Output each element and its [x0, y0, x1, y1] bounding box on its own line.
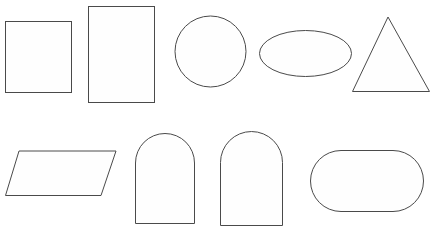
shapes-svg	[0, 0, 433, 234]
shape-rectangle	[89, 7, 155, 103]
shape-arch-wide	[221, 132, 283, 226]
shape-circle	[175, 16, 246, 87]
shape-stadium	[311, 151, 424, 212]
shape-diagram-canvas	[0, 0, 433, 234]
shape-ellipse	[260, 31, 352, 77]
shape-triangle	[353, 17, 430, 92]
shape-parallelogram	[6, 151, 117, 196]
shape-square	[6, 22, 72, 93]
shape-arch-narrow	[136, 134, 195, 224]
